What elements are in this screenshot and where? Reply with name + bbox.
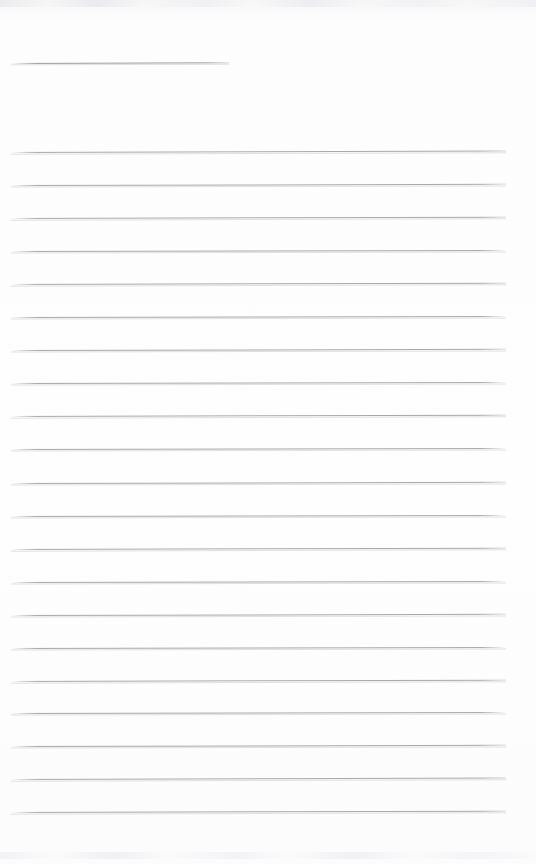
scan-noise-top-edge: [0, 0, 536, 7]
ruled-line: [11, 448, 506, 450]
ruled-line: [11, 349, 506, 351]
ruled-line: [11, 184, 506, 186]
ruled-line: [11, 647, 506, 649]
ruled-line: [11, 811, 506, 813]
ruled-line: [11, 581, 506, 583]
ruled-line: [11, 548, 506, 550]
ruled-line: [11, 316, 506, 318]
paper-texture: [0, 0, 536, 864]
ruled-line: [11, 151, 506, 153]
ruled-line: [11, 712, 506, 714]
ruled-line: [11, 283, 506, 285]
ruled-line: [11, 250, 506, 252]
ruled-line: [11, 515, 506, 517]
scan-noise-bottom-edge: [0, 852, 536, 859]
ruled-line: [11, 778, 506, 780]
ruled-line: [11, 217, 506, 219]
ruled-line: [11, 415, 506, 417]
ruled-line: [11, 382, 506, 384]
scanned-page: [0, 0, 536, 864]
title-underline-bleed: [11, 64, 229, 66]
ruled-line: [11, 614, 506, 616]
ruled-line: [11, 745, 506, 747]
ruled-line: [11, 680, 506, 682]
ruled-line: [11, 482, 506, 484]
title-underline-rule: [11, 62, 229, 64]
